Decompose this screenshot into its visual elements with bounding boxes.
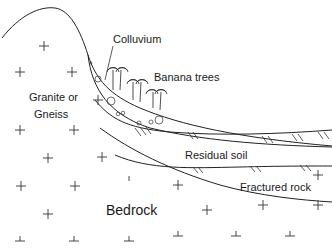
colluvium-leader-line <box>105 46 113 80</box>
geology-cross-section: Colluvium Banana trees Granite or Gneiss… <box>0 0 332 252</box>
colluvium-boundary-line <box>88 55 332 147</box>
plus-symbol <box>93 95 103 105</box>
banana-tree <box>107 68 128 91</box>
tee-symbol <box>69 236 79 241</box>
tee-symbol <box>231 231 241 236</box>
label-bedrock: Bedrock <box>106 202 158 218</box>
plus-symbol <box>15 125 25 135</box>
plus-symbol <box>69 125 79 135</box>
banana-tree <box>127 80 148 103</box>
plus-symbol <box>43 209 53 219</box>
banana-tree <box>146 90 167 111</box>
plus-symbol <box>258 200 268 210</box>
label-granite-line1: Granite or <box>29 91 78 103</box>
plus-symbol <box>313 170 323 180</box>
tee-symbol <box>124 236 134 241</box>
plus-symbol <box>39 41 49 51</box>
plus-symbol <box>16 181 26 191</box>
tee-symbol <box>285 231 295 236</box>
plus-symbol <box>15 67 25 77</box>
label-residual-soil: Residual soil <box>185 149 247 161</box>
label-fractured-rock: Fractured rock <box>240 181 311 193</box>
label-granite-line2: Gneiss <box>34 108 69 120</box>
plus-symbol <box>67 67 77 77</box>
label-colluvium: Colluvium <box>113 33 161 45</box>
tee-symbol <box>173 231 183 236</box>
residual-soil-top-line <box>95 100 332 134</box>
plus-symbol <box>43 153 53 163</box>
plus-symbol <box>173 180 183 190</box>
plus-symbol <box>97 152 107 162</box>
plus-symbol <box>70 181 80 191</box>
tee-symbol <box>15 236 25 241</box>
plus-symbol <box>202 205 212 215</box>
label-banana-trees: Banana trees <box>154 71 220 83</box>
